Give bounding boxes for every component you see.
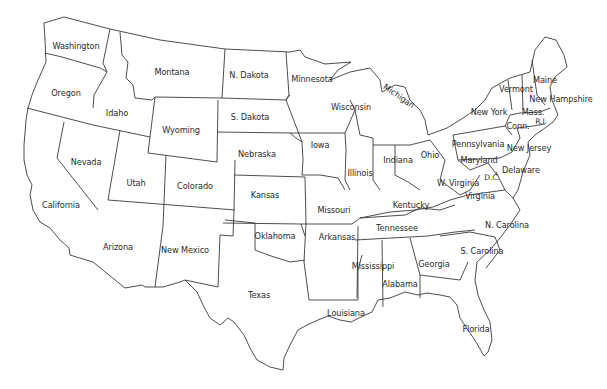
state-label-texas: Texas <box>248 291 270 299</box>
state-label-w-virginia: W. Virginia <box>437 179 479 187</box>
state-label-ohio: Ohio <box>421 151 440 159</box>
state-label-indiana: Indiana <box>383 156 413 164</box>
state-label-colorado: Colorado <box>177 182 213 190</box>
state-label-conn: Conn. <box>506 122 529 130</box>
state-label-n-carolina: N. Carolina <box>485 221 529 229</box>
state-label-arizona: Arizona <box>103 243 133 251</box>
state-label-georgia: Georgia <box>418 260 449 268</box>
state-label-wyoming: Wyoming <box>162 126 200 134</box>
state-label-mississippi: Mississippi <box>352 262 395 270</box>
state-label-idaho: Idaho <box>106 109 128 117</box>
state-label-minnesota: Minnesota <box>291 75 332 83</box>
state-label-mass: Mass. <box>522 108 545 116</box>
state-label-louisiana: Louisiana <box>327 309 365 317</box>
state-label-illinois: Illinois <box>347 169 372 177</box>
state-label-washington: Washington <box>52 42 99 50</box>
state-label-florida: Florida <box>462 325 489 333</box>
state-label-new-york: New York <box>471 108 508 116</box>
state-label-california: California <box>42 201 80 209</box>
state-label-s-dakota: S. Dakota <box>231 113 270 121</box>
state-label-missouri: Missouri <box>318 206 351 214</box>
state-label-new-hampshire: New Hampshire <box>529 95 592 103</box>
us-states-outline-map <box>0 0 607 389</box>
state-label-nebraska: Nebraska <box>238 150 276 158</box>
state-label-oregon: Oregon <box>51 89 80 97</box>
state-label-virginia: Virginia <box>465 192 495 200</box>
state-label-wisconsin: Wisconsin <box>331 103 371 111</box>
state-label-arkansas: Arkansas <box>319 233 356 241</box>
state-label-maryland: Maryland <box>460 156 497 164</box>
state-label-kansas: Kansas <box>251 191 279 199</box>
state-label-delaware: Delaware <box>502 166 540 174</box>
state-label-alabama: Alabama <box>382 280 417 288</box>
state-label-montana: Montana <box>155 68 190 76</box>
state-label-s-carolina: S. Carolina <box>461 247 504 255</box>
state-label-vermont: Vermont <box>499 85 533 93</box>
state-label-tennessee: Tennessee <box>376 224 418 232</box>
state-label-new-jersey: New Jersey <box>507 144 551 152</box>
state-label-nevada: Nevada <box>71 158 102 166</box>
state-label-n-dakota: N. Dakota <box>229 71 268 79</box>
state-label-kentucky: Kentucky <box>393 201 430 209</box>
state-label-oklahoma: Oklahoma <box>255 232 296 240</box>
state-label-maine: Maine <box>533 76 557 84</box>
state-label-new-mexico: New Mexico <box>161 246 209 254</box>
state-label-pennsylvania: Pennsylvania <box>452 140 505 148</box>
state-label-utah: Utah <box>126 179 145 187</box>
state-label-d-c: D.C. <box>484 174 500 182</box>
state-label-iowa: Iowa <box>311 141 330 149</box>
state-label-r-i: R.I. <box>535 118 547 126</box>
